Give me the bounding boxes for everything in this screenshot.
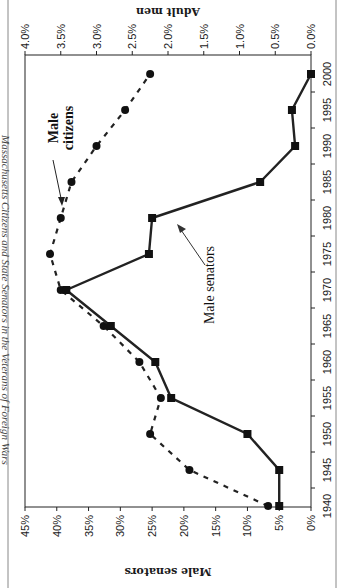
- citizens-label-line1: Male: [46, 113, 61, 143]
- citizens-point-marker: [185, 466, 193, 474]
- series-male-citizens: [46, 70, 272, 510]
- year-tick-label: 1945: [321, 458, 333, 482]
- top-tick-label: 1.5%: [198, 24, 210, 49]
- bottom-tick-label: 20%: [178, 515, 190, 537]
- year-tick-label: 1990: [321, 134, 333, 158]
- bottom-axis-labels: 0%5%10%15%20%25%30%35%40%45%: [19, 515, 317, 537]
- top-tick-label: 3.0%: [91, 24, 103, 49]
- top-axis-title: Adult men: [136, 5, 201, 18]
- bottom-tick-label: 25%: [146, 515, 158, 537]
- top-axis-labels: 0.0%0.5%1.0%1.5%2.0%2.5%3.0%3.5%4.0%: [19, 24, 317, 49]
- series-male-senators: [62, 70, 315, 510]
- senators-label: Male senators: [202, 246, 217, 324]
- year-tick-label: 1955: [321, 386, 333, 410]
- senators-point-marker: [275, 502, 283, 510]
- year-tick-label: 1965: [321, 314, 333, 338]
- bottom-axis-title: Male senators: [124, 565, 211, 578]
- bottom-tick-label: 10%: [241, 515, 253, 537]
- top-tick-label: 2.5%: [126, 24, 138, 49]
- citizens-point-marker: [264, 502, 272, 510]
- citizens-point-marker: [146, 70, 154, 78]
- senators-point-marker: [243, 430, 251, 438]
- year-tick-label: 2000: [321, 62, 333, 86]
- chart-title: Massachusetts Citizens and State Senator…: [0, 134, 12, 465]
- senators-point-marker: [145, 250, 153, 258]
- year-axis-labels: 1940194519501955196019651970197519801985…: [321, 62, 333, 518]
- bottom-tick-label: 40%: [51, 515, 63, 537]
- year-tick-label: 1970: [321, 278, 333, 302]
- top-tick-label: 3.5%: [55, 24, 67, 49]
- year-tick-label: 1940: [321, 494, 333, 518]
- year-tick-label: 1995: [321, 98, 333, 122]
- senators-point-marker: [291, 142, 299, 150]
- bottom-tick-label: 35%: [83, 515, 95, 537]
- senators-point-marker: [288, 106, 296, 114]
- top-tick-label: 4.0%: [19, 24, 31, 49]
- bottom-tick-label: 30%: [114, 515, 126, 537]
- year-tick-label: 1975: [321, 242, 333, 266]
- citizens-arrow-icon: [53, 160, 65, 206]
- citizens-point-marker: [146, 430, 154, 438]
- senators-point-marker: [167, 394, 175, 402]
- citizens-point-marker: [93, 142, 101, 150]
- citizens-point-marker: [121, 106, 129, 114]
- senators-point-marker: [151, 358, 159, 366]
- senators-point-marker: [307, 70, 315, 78]
- bottom-tick-label: 15%: [210, 515, 222, 537]
- citizens-point-marker: [157, 394, 165, 402]
- senators-point-marker: [107, 322, 115, 330]
- citizens-label-line2: citizens: [61, 105, 76, 150]
- bottom-tick-label: 45%: [19, 515, 31, 537]
- top-tick-label: 1.0%: [234, 24, 246, 49]
- senators-point-marker: [62, 286, 70, 294]
- citizens-point-marker: [67, 178, 75, 186]
- senators-point-marker: [148, 214, 156, 222]
- citizens-point-marker: [46, 250, 54, 258]
- top-tick-label: 0.0%: [305, 24, 317, 49]
- top-tick-label: 2.0%: [162, 24, 174, 49]
- year-tick-label: 1960: [321, 350, 333, 374]
- year-tick-label: 1985: [321, 170, 333, 194]
- year-tick-label: 1980: [321, 206, 333, 230]
- senators-point-marker: [256, 178, 264, 186]
- year-tick-label: 1950: [321, 422, 333, 446]
- citizens-point-marker: [57, 214, 65, 222]
- bottom-tick-label: 5%: [273, 515, 285, 531]
- bottom-tick-label: 0%: [305, 515, 317, 531]
- top-tick-label: 0.5%: [269, 24, 281, 49]
- citizens-point-marker: [135, 358, 143, 366]
- senators-arrow-icon: [177, 224, 205, 265]
- vfw-membership-chart: Massachusetts Citizens and State Senator…: [0, 0, 343, 588]
- senators-point-marker: [275, 466, 283, 474]
